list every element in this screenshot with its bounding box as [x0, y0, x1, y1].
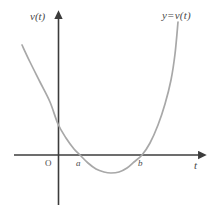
root-b-label: b — [138, 159, 143, 168]
y-axis-label: v(t) — [30, 11, 45, 22]
origin-label: O — [45, 159, 52, 168]
axes-group — [14, 17, 200, 205]
curve-group — [22, 22, 178, 173]
velocity-curve — [22, 22, 178, 173]
figure-canvas — [0, 0, 215, 209]
math-figure: v(t) t y=v(t) O a b — [0, 0, 215, 209]
x-axis-label: t — [194, 160, 197, 171]
root-a-label: a — [76, 159, 81, 168]
curve-equation-label: y=v(t) — [162, 10, 191, 21]
